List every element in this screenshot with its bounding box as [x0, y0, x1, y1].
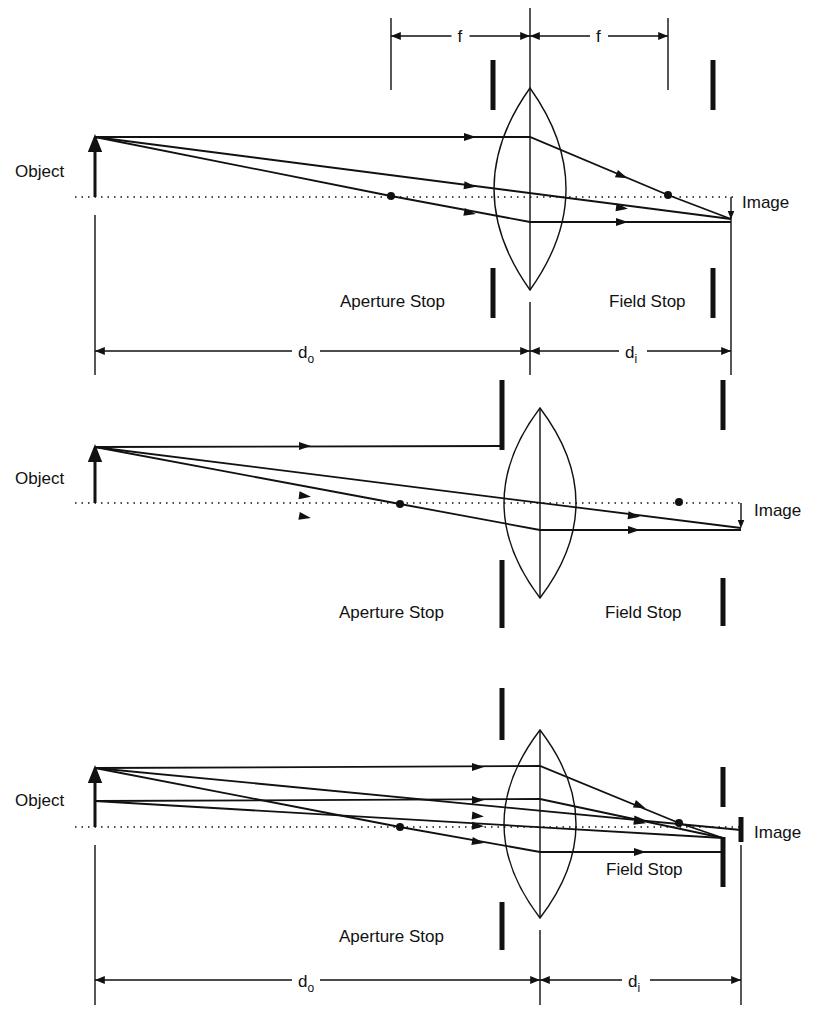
image-label: Image [754, 823, 801, 842]
light-ray [95, 768, 723, 852]
image-label: Image [742, 193, 789, 212]
ray-arrow-icon [298, 512, 311, 522]
ray-arrow-icon [463, 208, 476, 218]
aperture-stop-label: Aperture Stop [339, 603, 444, 622]
ray-arrow-icon [472, 796, 484, 804]
light-ray [95, 447, 741, 528]
optics-diagram: ObjectImageAperture StopField Stopffdodi… [0, 0, 826, 1021]
light-ray [95, 137, 731, 219]
ray-arrow-icon [472, 811, 485, 820]
field-stop-label: Field Stop [606, 860, 683, 879]
panel-middle: ObjectImageAperture StopField Stop [15, 380, 801, 628]
object-label: Object [15, 162, 64, 181]
panel-top: ObjectImageAperture StopField Stopffdodi [15, 8, 789, 375]
field-stop-label: Field Stop [605, 603, 682, 622]
dimension-label: di [628, 972, 640, 995]
object-label: Object [15, 469, 64, 488]
image-label: Image [754, 501, 801, 520]
object-label: Object [15, 791, 64, 810]
ray-arrow-icon [299, 442, 311, 450]
blocked-ray [95, 446, 502, 447]
ray-arrow-icon [299, 491, 312, 500]
dimension-label: di [625, 343, 637, 366]
ray-arrow-icon [472, 763, 484, 771]
ray-arrow-icon [634, 848, 646, 856]
focal-length-label: f [596, 27, 601, 46]
ray-arrow-icon [628, 526, 640, 534]
ray-arrow-icon [616, 218, 628, 226]
dimension-label: do [298, 972, 314, 995]
panel-bottom: ObjectImageAperture StopField Stopdodi [15, 688, 801, 1005]
focal-length-label: f [458, 27, 463, 46]
dimension-label: do [298, 343, 314, 366]
aperture-stop-label: Aperture Stop [339, 927, 444, 946]
ray-arrow-icon [464, 133, 476, 141]
ray-arrow-icon [615, 170, 629, 182]
field-stop-label: Field Stop [609, 292, 686, 311]
aperture-stop-label: Aperture Stop [340, 292, 445, 311]
ray-arrow-icon [633, 800, 647, 812]
focal-point-dot [675, 498, 683, 506]
